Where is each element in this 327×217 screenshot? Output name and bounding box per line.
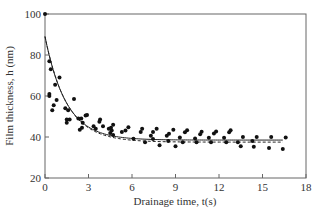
data-point bbox=[250, 139, 254, 143]
data-point bbox=[55, 98, 59, 102]
y-tick-label: 20 bbox=[30, 172, 42, 184]
data-point bbox=[50, 108, 54, 112]
data-point bbox=[241, 135, 245, 139]
fit-line-solid bbox=[45, 37, 283, 141]
data-point bbox=[267, 146, 271, 150]
x-tick-label: 9 bbox=[173, 181, 179, 193]
data-point bbox=[111, 133, 115, 137]
data-point bbox=[149, 134, 153, 138]
data-point bbox=[49, 67, 53, 71]
chart: 0369121518 20406080100 Drainage time, t(… bbox=[0, 0, 327, 217]
data-point bbox=[174, 144, 178, 148]
data-point bbox=[200, 130, 204, 134]
data-points bbox=[43, 12, 288, 151]
data-point bbox=[79, 117, 83, 121]
data-point bbox=[143, 140, 147, 144]
x-tick-label: 12 bbox=[214, 181, 225, 193]
data-point bbox=[120, 130, 124, 134]
data-point bbox=[181, 140, 185, 144]
data-point bbox=[111, 123, 115, 127]
x-tick-label: 15 bbox=[257, 181, 269, 193]
y-tick-label: 80 bbox=[30, 49, 42, 61]
data-point bbox=[222, 136, 226, 140]
data-point bbox=[126, 125, 130, 129]
data-point bbox=[52, 103, 56, 107]
data-point bbox=[255, 135, 259, 139]
y-tick-label: 100 bbox=[25, 8, 42, 20]
data-point bbox=[72, 97, 76, 101]
data-point bbox=[229, 128, 233, 132]
data-point bbox=[269, 135, 273, 139]
data-point bbox=[85, 113, 89, 117]
data-point bbox=[185, 128, 189, 132]
x-tick-label: 18 bbox=[301, 181, 313, 193]
data-point bbox=[151, 130, 155, 134]
data-point bbox=[78, 128, 82, 132]
data-point bbox=[178, 135, 182, 139]
data-point bbox=[131, 137, 135, 141]
data-point bbox=[239, 144, 243, 148]
data-point bbox=[68, 118, 72, 122]
data-point bbox=[167, 132, 171, 136]
data-point bbox=[43, 12, 47, 16]
data-point bbox=[110, 128, 114, 132]
data-point bbox=[101, 124, 105, 128]
data-point bbox=[252, 145, 256, 149]
data-point bbox=[236, 140, 240, 144]
data-point bbox=[53, 83, 57, 87]
x-tick-label: 6 bbox=[129, 181, 135, 193]
data-point bbox=[224, 140, 228, 144]
data-point bbox=[193, 136, 197, 140]
data-point bbox=[123, 128, 127, 132]
data-point bbox=[207, 136, 211, 140]
x-axis-title: Drainage time, t(s) bbox=[134, 195, 217, 208]
y-tick-label: 60 bbox=[30, 90, 42, 102]
data-point bbox=[81, 121, 85, 125]
data-point bbox=[47, 94, 51, 98]
data-point bbox=[151, 137, 155, 141]
plot-frame bbox=[45, 14, 306, 178]
data-point bbox=[65, 121, 69, 125]
data-point bbox=[47, 59, 51, 63]
x-tick-label: 0 bbox=[42, 181, 48, 193]
data-point bbox=[140, 127, 144, 131]
y-axis-title: Film thickness, h (nm) bbox=[3, 46, 16, 146]
data-point bbox=[195, 140, 199, 144]
x-tick-label: 3 bbox=[86, 181, 92, 193]
data-point bbox=[158, 143, 162, 147]
data-point bbox=[66, 108, 70, 112]
data-point bbox=[98, 118, 102, 122]
data-point bbox=[166, 139, 170, 143]
data-point bbox=[155, 127, 159, 131]
x-axis: 0369121518 bbox=[42, 174, 312, 193]
data-point bbox=[214, 129, 218, 133]
data-point bbox=[58, 76, 62, 80]
y-tick-label: 40 bbox=[30, 131, 42, 143]
data-point bbox=[94, 127, 98, 131]
data-point bbox=[171, 128, 175, 132]
data-point bbox=[209, 140, 213, 144]
data-point bbox=[284, 136, 288, 140]
data-point bbox=[281, 147, 285, 151]
